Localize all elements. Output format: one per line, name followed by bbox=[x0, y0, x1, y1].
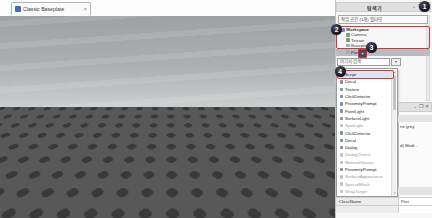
tree-item-baseplate[interactable]: Baseplate bbox=[336, 43, 429, 48]
properties-section-band bbox=[398, 115, 432, 122]
camera-icon bbox=[346, 33, 350, 37]
insert-item-label: DialogChoice bbox=[345, 152, 371, 157]
insert-item-label: SurfaceLight bbox=[345, 116, 369, 121]
insert-item-label: SpotLight bbox=[345, 123, 363, 128]
insert-item[interactable]: DialogChoice bbox=[339, 151, 391, 158]
spotlight-icon bbox=[340, 124, 343, 127]
texture-icon bbox=[340, 88, 343, 91]
clickdetector-icon bbox=[340, 95, 343, 98]
insert-item[interactable]: SurfaceAppearance bbox=[339, 173, 391, 180]
pointlight-icon bbox=[340, 109, 343, 112]
callout-circle-1: 1 bbox=[419, 1, 430, 12]
insert-item-label: MaterialVariant bbox=[345, 160, 374, 165]
insert-item[interactable]: WrapTarget bbox=[339, 188, 391, 195]
insert-item-label: ClickDetector bbox=[345, 94, 371, 99]
insert-item-label: ClickDetector bbox=[345, 131, 371, 136]
callout-circle-4: 4 bbox=[335, 66, 346, 77]
dialog-icon bbox=[340, 146, 343, 149]
insert-item[interactable]: MaterialVariant bbox=[339, 159, 391, 166]
insert-item-label: Dialog bbox=[345, 145, 357, 150]
list-scrollbar[interactable]: ▴ ▾ bbox=[391, 70, 396, 196]
part-icon bbox=[346, 44, 350, 48]
insert-item-label: ProximityPrompt bbox=[345, 101, 377, 106]
insert-item-label: SpecialMesh bbox=[345, 182, 370, 187]
property-value-cell[interactable] bbox=[398, 205, 432, 213]
insert-item[interactable]: SurfaceLight bbox=[339, 115, 391, 122]
insert-item-label: Decal bbox=[345, 138, 356, 143]
insert-item[interactable]: SpotLight bbox=[339, 122, 391, 129]
insert-item-label: Decal bbox=[345, 79, 356, 84]
part-icon bbox=[346, 50, 350, 54]
insert-menu-button[interactable]: ▾ bbox=[391, 58, 401, 67]
scroll-down-icon[interactable]: ▾ bbox=[392, 191, 397, 196]
explorer-filter-input[interactable]: 작업 공간 (1개) 필터링 bbox=[338, 15, 428, 24]
insert-item-script[interactable]: Script bbox=[339, 71, 391, 78]
decal-icon bbox=[340, 139, 343, 142]
specialmesh-icon bbox=[340, 182, 343, 185]
surfacelight-icon bbox=[340, 117, 343, 120]
property-value-cell[interactable]: Part bbox=[398, 197, 432, 205]
place-tab[interactable]: Classic Baseplate × bbox=[11, 2, 91, 15]
property-value-fragment: d) Medi... bbox=[400, 143, 418, 148]
insert-item[interactable]: Dialog bbox=[339, 144, 391, 151]
materialvariant-icon bbox=[340, 161, 343, 164]
insert-item-label: WrapTarget bbox=[345, 189, 367, 194]
insert-item[interactable]: ClickDetector bbox=[339, 129, 391, 136]
callout-circle-3: 3 bbox=[366, 42, 377, 53]
tab-bar: Classic Baseplate × bbox=[0, 0, 335, 17]
tab-close-icon[interactable]: × bbox=[83, 6, 87, 12]
insert-item[interactable]: ClickDetector bbox=[339, 93, 391, 100]
proximityprompt-icon bbox=[340, 102, 343, 105]
explorer-title: 탐색기 bbox=[337, 4, 412, 11]
collapse-icon[interactable]: ⌄ bbox=[412, 5, 416, 10]
insert-item[interactable]: ProximityPrompt bbox=[339, 100, 391, 107]
insert-item[interactable]: Decal bbox=[339, 78, 391, 85]
insert-item-label: Script bbox=[345, 72, 356, 77]
insert-item[interactable]: Decal bbox=[339, 137, 391, 144]
wraptarget-icon bbox=[340, 190, 343, 193]
terrain-icon bbox=[346, 38, 350, 42]
decal-icon bbox=[340, 80, 343, 83]
insert-item-label: SurfaceAppearance bbox=[345, 174, 383, 179]
surfaceappearance-icon bbox=[340, 175, 343, 178]
ink-scribble bbox=[5, 200, 30, 213]
properties-section-band bbox=[398, 187, 432, 195]
insert-item[interactable]: PointLight bbox=[339, 108, 391, 115]
property-name-cell bbox=[336, 205, 398, 213]
tab-label: Classic Baseplate bbox=[23, 6, 81, 12]
place-icon bbox=[15, 6, 21, 12]
property-value-fragment: ne grey bbox=[400, 124, 414, 129]
float-icon[interactable]: ❐ bbox=[419, 105, 423, 110]
scrollbar-thumb[interactable] bbox=[393, 76, 397, 110]
insert-item-label: Texture bbox=[345, 87, 359, 92]
proximityprompt-icon bbox=[340, 168, 343, 171]
explorer-header: 탐색기 ⌄ ❐ ✕ bbox=[336, 2, 431, 12]
insert-object-list: Script Decal Texture ClickDetector Proxi… bbox=[336, 68, 398, 197]
properties-header: ⌄ ❐ ✕ bbox=[398, 102, 432, 112]
insert-item[interactable]: ProximityPrompt bbox=[339, 166, 391, 173]
scroll-up-icon[interactable]: ▴ bbox=[392, 70, 397, 75]
part-block[interactable] bbox=[0, 16, 335, 218]
viewport-3d[interactable] bbox=[0, 16, 335, 218]
clickdetector-icon bbox=[340, 131, 343, 134]
close-icon[interactable]: ✕ bbox=[425, 105, 429, 110]
callout-circle-2: 2 bbox=[331, 24, 342, 35]
insert-item[interactable]: SpecialMesh bbox=[339, 181, 391, 188]
tree-item-part-selected[interactable]: Part bbox=[336, 49, 430, 56]
dialogchoice-icon bbox=[340, 153, 343, 156]
insert-search-input[interactable]: 여기서 검색 bbox=[337, 58, 390, 67]
studio-window: Classic Baseplate × 탐색기 ⌄ ❐ ✕ 작업 공간 (1개)… bbox=[0, 0, 432, 218]
property-name-cell: ClassName bbox=[336, 197, 398, 205]
insert-item[interactable]: Texture bbox=[339, 86, 391, 93]
insert-item-label: ProximityPrompt bbox=[345, 167, 377, 172]
insert-item-label: PointLight bbox=[345, 109, 364, 114]
collapse-icon[interactable]: ⌄ bbox=[413, 105, 417, 110]
